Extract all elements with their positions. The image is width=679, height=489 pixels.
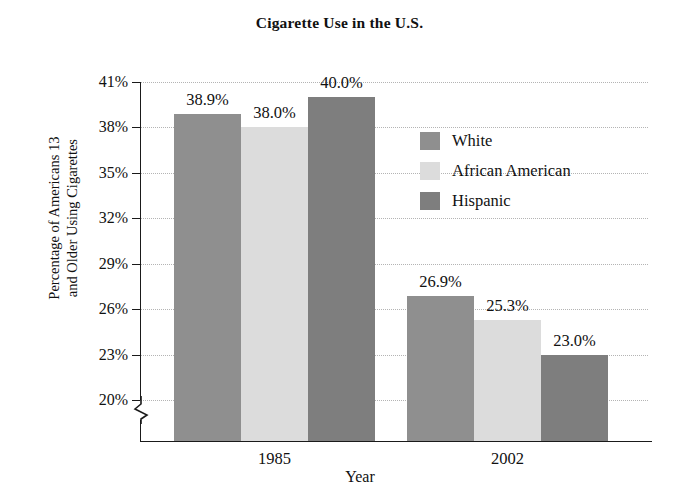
bar-value-label: 40.0% [320, 75, 363, 92]
y-axis-tick-mark [132, 127, 140, 128]
legend-color-swatch [420, 132, 440, 150]
bar-value-label: 23.0% [553, 333, 596, 350]
y-axis-tick-mark [132, 173, 140, 174]
y-axis-tick-label: 26% [82, 301, 128, 317]
y-axis-tick-label-wrap: 26% [82, 301, 128, 317]
bar-value-label: 38.9% [186, 92, 229, 109]
legend-color-swatch [420, 192, 440, 210]
bar-value-label: 25.3% [486, 298, 529, 315]
y-axis-line [140, 82, 141, 400]
y-axis-tick-label-wrap: 32% [82, 210, 128, 226]
y-axis-tick-label-wrap: 35% [82, 165, 128, 181]
legend-item-label: African American [452, 163, 571, 180]
y-axis-tick-label-wrap: 41% [82, 74, 128, 90]
y-axis-title: Percentage of Americans 13 and Older Usi… [45, 68, 81, 368]
y-axis-tick-mark [132, 400, 140, 401]
y-axis-tick-mark [132, 82, 140, 83]
legend-item[interactable]: African American [420, 156, 571, 186]
y-axis-tick-label: 41% [82, 74, 128, 90]
y-axis-tick-label-wrap: 29% [82, 256, 128, 272]
legend-color-swatch [420, 162, 440, 180]
y-axis-tick-mark [132, 264, 140, 265]
y-axis-tick-label-wrap: 38% [82, 119, 128, 135]
y-axis-tick-label: 23% [82, 347, 128, 363]
y-axis-tick-label-wrap: 23% [82, 347, 128, 363]
bar-value-label: 38.0% [253, 105, 296, 122]
bar[interactable] [308, 97, 375, 441]
y-axis-tick-mark [132, 309, 140, 310]
gridline [140, 82, 648, 83]
legend-item[interactable]: Hispanic [420, 186, 571, 216]
chart-title: Cigarette Use in the U.S. [0, 14, 679, 32]
x-axis-group-label: 2002 [458, 449, 558, 469]
bar[interactable] [474, 320, 541, 441]
y-axis-tick-mark [132, 355, 140, 356]
legend-item[interactable]: White [420, 126, 571, 156]
bar-chart: Cigarette Use in the U.S. 41%38%35%32%29… [0, 0, 679, 489]
y-axis-tick-label: 20% [82, 392, 128, 408]
y-axis-title-line-1: Percentage of Americans 13 [45, 68, 63, 368]
bar[interactable] [241, 127, 308, 441]
y-axis-tick-label: 32% [82, 210, 128, 226]
bar[interactable] [407, 296, 474, 441]
y-axis-tick-label: 35% [82, 165, 128, 181]
x-axis-line [140, 441, 652, 442]
bar[interactable] [174, 114, 241, 441]
x-axis-group-label: 1985 [225, 449, 325, 469]
y-axis-title-line-2: and Older Using Cigarettes [63, 68, 81, 368]
y-axis-tick-label: 29% [82, 256, 128, 272]
bar-value-label: 26.9% [419, 274, 462, 291]
x-axis-title: Year [0, 468, 679, 486]
y-axis-tick-mark [132, 218, 140, 219]
y-axis-tick-label-wrap: 20% [82, 392, 128, 408]
y-axis-tick-label: 38% [82, 119, 128, 135]
chart-legend: WhiteAfrican AmericanHispanic [420, 126, 571, 216]
legend-item-label: Hispanic [452, 193, 511, 210]
legend-item-label: White [452, 133, 492, 150]
bar[interactable] [541, 355, 608, 441]
